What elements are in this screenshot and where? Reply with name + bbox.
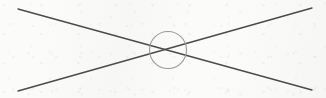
line-drawing-svg — [0, 0, 326, 98]
figure-canvas — [0, 0, 326, 98]
ascending-diagonal-line — [18, 8, 312, 91]
